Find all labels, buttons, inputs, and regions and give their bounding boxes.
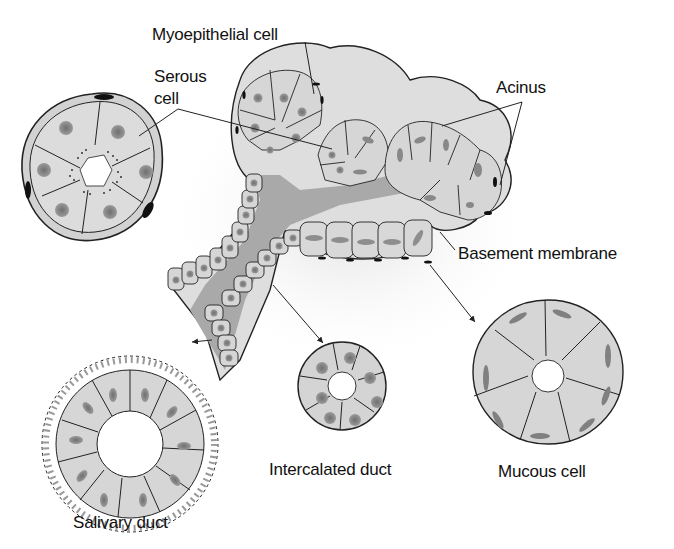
intercalated-duct-cross-section xyxy=(298,342,386,430)
label-myoepithelial-cell: Myoepithelial cell xyxy=(152,26,278,45)
mucous-acinus-cross-section xyxy=(473,300,623,444)
label-serous-line1: Serous xyxy=(154,68,207,87)
label-mucous-cell: Mucous cell xyxy=(498,463,586,482)
label-acinus: Acinus xyxy=(496,79,546,98)
label-salivary-duct: Salivary duct xyxy=(73,514,168,533)
serous-acinus-cross-section xyxy=(22,93,162,240)
label-serous-line2: cell xyxy=(154,90,179,109)
label-intercalated-duct: Intercalated duct xyxy=(269,461,391,480)
label-basement-membrane: Basement membrane xyxy=(458,245,617,264)
salivary-duct-cross-section xyxy=(42,356,218,532)
